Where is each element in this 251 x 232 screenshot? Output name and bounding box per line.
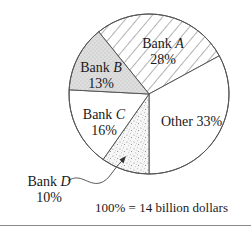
footnote-text: 100% = 14 billion dollars xyxy=(95,200,228,215)
bank-letter: B xyxy=(113,60,122,75)
label-bank-c: Bank C 16% xyxy=(79,107,129,139)
label-other: Other 33% xyxy=(161,114,221,130)
bank-word: Bank xyxy=(27,174,57,189)
label-bank-b: Bank B 13% xyxy=(76,60,126,92)
pct-value: 10% xyxy=(36,190,62,205)
pct-value: 16% xyxy=(91,123,117,138)
other-text: Other 33% xyxy=(161,114,222,129)
bank-word: Bank xyxy=(142,36,172,51)
bank-letter: A xyxy=(175,36,184,51)
footnote-total: 100% = 14 billion dollars xyxy=(95,200,225,216)
label-bank-a: Bank A 28% xyxy=(138,36,188,68)
bank-letter: D xyxy=(60,174,70,189)
label-bank-d: Bank D 10% xyxy=(26,174,72,206)
bank-letter: C xyxy=(116,107,125,122)
bank-word: Bank xyxy=(80,60,110,75)
bottom-divider xyxy=(0,225,251,226)
pct-value: 13% xyxy=(88,76,114,91)
pct-value: 28% xyxy=(150,52,176,67)
bank-word: Bank xyxy=(83,107,113,122)
